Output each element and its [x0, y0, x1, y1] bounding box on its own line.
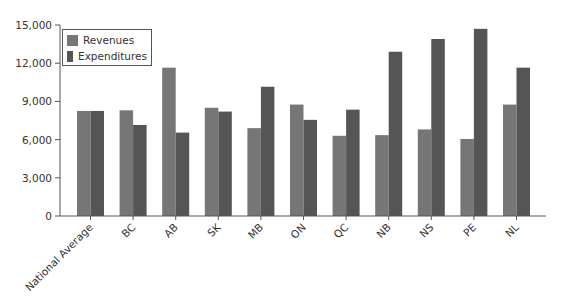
x-category-label: NL: [503, 221, 521, 239]
bar-revenues-sk: [205, 108, 219, 216]
bar-expenditures-mb: [261, 87, 275, 216]
x-axis: National AverageBCABSKMBONQCNBNSPENL: [23, 216, 546, 293]
bar-revenues-qc: [333, 136, 347, 216]
bar-revenues-mb: [247, 128, 261, 216]
bar-revenues-nb: [375, 135, 389, 216]
x-category-label: SK: [205, 220, 224, 239]
y-tick-label: 9,000: [22, 95, 52, 107]
bar-expenditures-nb: [389, 52, 403, 216]
x-category-label: MB: [245, 221, 265, 241]
y-tick-label: 15,000: [15, 19, 52, 31]
x-category-label: BC: [119, 221, 138, 240]
bar-expenditures-pe: [474, 29, 488, 216]
x-category-label: NS: [417, 221, 436, 240]
bar-revenues-nl: [503, 105, 517, 216]
bar-revenues-on: [290, 105, 304, 216]
bar-expenditures-on: [304, 120, 318, 216]
bar-expenditures-qc: [346, 110, 360, 216]
x-category-label: AB: [161, 221, 180, 240]
x-category-label: NB: [374, 221, 393, 240]
bar-expenditures-sk: [218, 112, 232, 216]
y-tick-label: 12,000: [15, 57, 52, 69]
legend-label-revenues: Revenues: [83, 34, 134, 46]
bar-revenues-bc: [120, 110, 134, 216]
legend-label-expenditures: Expenditures: [78, 50, 147, 62]
legend-item-revenues: Revenues: [67, 32, 147, 48]
bar-revenues-pe: [460, 139, 474, 216]
bar-revenues-national-average: [77, 111, 91, 216]
bar-expenditures-bc: [133, 125, 147, 216]
y-tick-label: 0: [45, 210, 52, 222]
legend-item-expenditures: Expenditures: [67, 48, 147, 64]
bar-expenditures-ab: [176, 133, 190, 216]
bar-revenues-ns: [418, 129, 432, 216]
y-axis: 03,0006,0009,00012,00015,000: [15, 19, 60, 222]
revenues-swatch: [67, 35, 78, 46]
x-category-label: QC: [331, 221, 351, 241]
expenditures-swatch: [67, 51, 73, 62]
y-tick-label: 3,000: [22, 172, 52, 184]
y-tick-label: 6,000: [22, 134, 52, 146]
bar-revenues-ab: [162, 68, 176, 216]
x-category-label: PE: [461, 221, 479, 239]
bar-expenditures-national-average: [91, 111, 105, 216]
bar-expenditures-nl: [517, 68, 531, 216]
bar-expenditures-ns: [431, 39, 445, 216]
x-category-label: National Average: [23, 221, 95, 293]
legend: Revenues Expenditures: [62, 29, 152, 66]
x-category-label: ON: [288, 221, 308, 241]
